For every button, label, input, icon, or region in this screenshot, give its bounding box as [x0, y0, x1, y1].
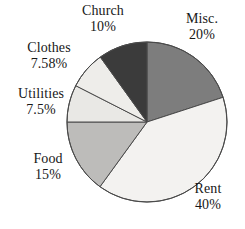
pie-chart-figure: Church 10% Misc. 20% Clothes 7.58% Utili… — [0, 0, 245, 229]
pie-label-misc-name: Misc. — [163, 11, 241, 27]
pie-label-clothes-value: 7.58% — [6, 56, 92, 72]
pie-label-church-value: 10% — [61, 19, 145, 35]
pie-label-misc: Misc. 20% — [163, 11, 241, 42]
pie-label-food-value: 15% — [12, 167, 84, 183]
pie-label-rent-value: 40% — [176, 197, 240, 213]
pie-label-clothes: Clothes 7.58% — [6, 40, 92, 71]
pie-label-food: Food 15% — [12, 151, 84, 182]
pie-label-rent: Rent 40% — [176, 181, 240, 212]
pie-label-rent-name: Rent — [176, 181, 240, 197]
pie-label-church-name: Church — [61, 3, 145, 19]
pie-label-clothes-name: Clothes — [6, 40, 92, 56]
pie-label-church: Church 10% — [61, 3, 145, 34]
pie-label-misc-value: 20% — [163, 27, 241, 43]
pie-label-utilities-name: Utilities — [0, 86, 82, 102]
pie-label-food-name: Food — [12, 151, 84, 167]
pie-label-utilities: Utilities 7.5% — [0, 86, 82, 117]
pie-label-utilities-value: 7.5% — [0, 102, 82, 118]
